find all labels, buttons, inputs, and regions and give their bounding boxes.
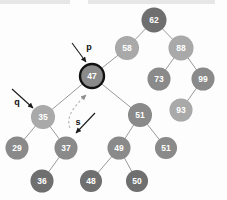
node-value-label: 51 [135, 110, 145, 120]
node-value-label: 58 [122, 43, 132, 53]
tree-edge [51, 83, 83, 110]
pointer-arrow [72, 43, 86, 62]
tree-node-47[interactable]: 47 [80, 64, 104, 88]
tree-node-58[interactable]: 58 [115, 36, 139, 60]
node-value-label: 29 [12, 143, 22, 153]
tree-edge [147, 124, 160, 141]
pointer-label-p: p [86, 42, 92, 52]
ptr-q: q [12, 89, 33, 108]
pointer-label-q: q [14, 97, 20, 107]
tree-edge [125, 124, 134, 139]
tree-edge [124, 157, 132, 172]
tree-node-35[interactable]: 35 [31, 105, 55, 129]
tree-edge [188, 57, 197, 70]
tree-edge [101, 55, 119, 69]
tree-node-37[interactable]: 37 [55, 137, 78, 160]
pointer-label-s: s [75, 117, 80, 127]
tree-node-99[interactable]: 99 [192, 68, 215, 91]
node-value-label: 73 [154, 74, 164, 84]
tree-edge [24, 125, 36, 140]
tree-node-51[interactable]: 51 [128, 103, 152, 127]
tree-edge [162, 28, 173, 39]
tree-node-50[interactable]: 50 [126, 170, 148, 192]
tree-node-88[interactable]: 88 [169, 36, 194, 61]
tree-node-93[interactable]: 93 [170, 99, 193, 122]
node-value-label: 51 [161, 143, 171, 153]
tree-edge [48, 156, 60, 172]
node-value-label: 50 [132, 176, 142, 186]
tree-diagram-canvas: 62588847739993355129374951364850 pqs [0, 0, 227, 200]
tree-edge [97, 156, 112, 173]
tree-node-49[interactable]: 49 [108, 137, 131, 160]
tree-edge [101, 83, 132, 108]
ptr-p: p [72, 42, 92, 62]
node-value-label: 36 [37, 176, 47, 186]
tree-node-73[interactable]: 73 [148, 68, 171, 91]
node-value-label: 48 [86, 176, 96, 186]
tree-node-51[interactable]: 51 [155, 137, 177, 159]
node-value-label: 93 [176, 105, 186, 115]
tree-graphic: 62588847739993355129374951364850 pqs [0, 0, 227, 200]
node-value-label: 49 [114, 143, 124, 153]
tree-node-36[interactable]: 36 [31, 170, 54, 193]
tree-edge [165, 57, 174, 70]
tree-node-62[interactable]: 62 [142, 8, 167, 33]
node-value-label: 37 [61, 143, 71, 153]
node-value-label: 62 [149, 15, 159, 25]
node-value-label: 99 [198, 74, 208, 84]
nodes-layer: 62588847739993355129374951364850 [6, 8, 215, 193]
tree-edge [187, 88, 197, 102]
tree-node-29[interactable]: 29 [6, 137, 29, 160]
node-value-label: 88 [176, 43, 186, 53]
ptr-s: s [75, 113, 95, 133]
node-value-label: 47 [87, 71, 97, 81]
tree-node-48[interactable]: 48 [80, 170, 102, 192]
tree-edge [135, 28, 146, 40]
node-value-label: 35 [38, 112, 48, 122]
tree-edge [50, 126, 60, 140]
